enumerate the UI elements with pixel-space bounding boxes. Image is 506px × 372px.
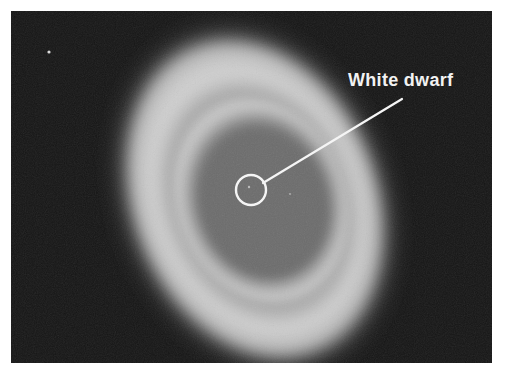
white-dwarf-label: White dwarf xyxy=(348,70,453,91)
nebula-illustration xyxy=(11,11,492,363)
nebula-photo: White dwarf xyxy=(11,11,492,363)
film-grain xyxy=(11,11,492,363)
